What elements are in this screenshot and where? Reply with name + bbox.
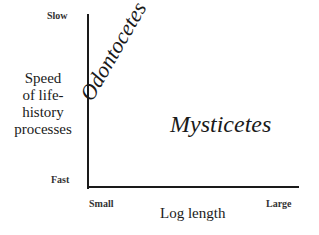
x-axis-line: [87, 186, 299, 188]
y-axis-line: [87, 14, 89, 189]
y-axis-title-line: processes: [2, 121, 84, 138]
region-label-mysticetes: Mysticetes: [170, 111, 271, 138]
x-axis-right-label: Large: [266, 198, 292, 209]
y-axis-title-line: Speed: [2, 70, 84, 87]
y-axis-title: Speed of life- history processes: [2, 70, 84, 138]
y-axis-title-line: history: [2, 104, 84, 121]
y-axis-bottom-label: Fast: [51, 174, 69, 185]
region-label-odontocetes: Odontocetes: [75, 0, 178, 105]
x-axis-title: Log length: [160, 205, 225, 222]
y-axis-top-label: Slow: [47, 10, 68, 21]
y-axis-title-line: of life-: [2, 87, 84, 104]
x-axis-left-label: Small: [89, 198, 113, 209]
